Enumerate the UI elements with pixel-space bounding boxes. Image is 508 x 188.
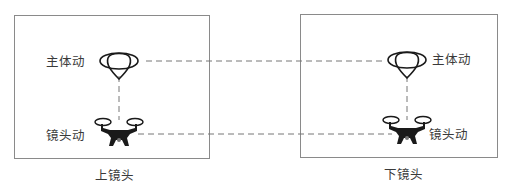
drone-icon xyxy=(95,119,143,147)
drone-icon xyxy=(383,117,431,145)
left-subject-label: 主体动 xyxy=(46,55,85,69)
balloon-icon xyxy=(388,52,426,78)
right-caption: 下镜头 xyxy=(373,164,433,183)
right-subject-label: 主体动 xyxy=(432,53,471,67)
left-camera-label: 镜头动 xyxy=(46,129,85,143)
diagram-canvas xyxy=(0,0,508,188)
balloon-icon xyxy=(100,53,138,79)
left-caption: 上镜头 xyxy=(84,165,144,184)
right-camera-label: 镜头动 xyxy=(429,128,468,142)
